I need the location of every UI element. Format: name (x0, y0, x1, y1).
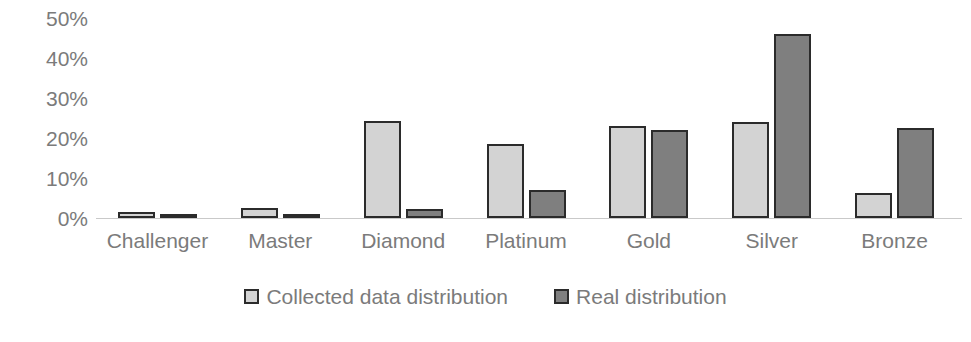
x-axis-tick-label: Challenger (96, 226, 219, 256)
bar-group (833, 18, 956, 218)
bar (364, 121, 401, 218)
bar (487, 144, 524, 218)
bar-group (587, 18, 710, 218)
x-axis-tick-label: Platinum (465, 226, 588, 256)
bar (732, 122, 769, 218)
y-axis-tick-label: 30% (0, 88, 88, 109)
bar (897, 128, 934, 218)
y-axis-tick-label: 40% (0, 48, 88, 69)
x-axis-tick-label: Silver (710, 226, 833, 256)
legend-entry[interactable]: Collected data distribution (244, 286, 508, 307)
y-axis: 50% 40% 30% 20% 10% 0% (0, 18, 88, 218)
x-axis-tick-label: Gold (587, 226, 710, 256)
bar-group (465, 18, 588, 218)
bar-group (219, 18, 342, 218)
bar-group (342, 18, 465, 218)
bar (855, 193, 892, 218)
x-axis-tick-label: Diamond (342, 226, 465, 256)
bar (241, 208, 278, 218)
legend-label: Real distribution (576, 286, 727, 307)
bar-group (710, 18, 833, 218)
x-axis-tick-label: Bronze (833, 226, 956, 256)
bar-groups (96, 18, 956, 218)
bar-chart: 50% 40% 30% 20% 10% 0% ChallengerMasterD… (0, 0, 971, 342)
bar (774, 34, 811, 218)
bar-group (96, 18, 219, 218)
bar (406, 209, 443, 218)
legend-swatch-icon (244, 289, 259, 304)
bar (609, 126, 646, 218)
y-axis-tick-label: 20% (0, 128, 88, 149)
bar (651, 130, 688, 218)
bar (529, 190, 566, 218)
legend-label: Collected data distribution (266, 286, 508, 307)
chart-legend: Collected data distributionReal distribu… (0, 286, 971, 307)
plot-area (96, 18, 956, 218)
y-axis-tick-label: 50% (0, 8, 88, 29)
x-axis-line (96, 218, 962, 219)
x-axis-tick-label: Master (219, 226, 342, 256)
x-axis: ChallengerMasterDiamondPlatinumGoldSilve… (96, 226, 956, 256)
legend-entry[interactable]: Real distribution (554, 286, 727, 307)
y-axis-tick-label: 0% (0, 208, 88, 229)
legend-swatch-icon (554, 289, 569, 304)
y-axis-tick-label: 10% (0, 168, 88, 189)
